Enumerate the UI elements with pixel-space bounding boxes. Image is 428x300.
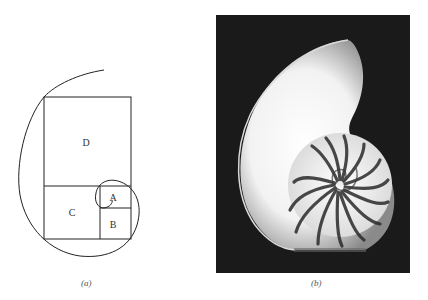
label-a: A: [109, 192, 117, 203]
label-d: D: [82, 137, 89, 148]
figure-panel-b: [200, 0, 428, 300]
figure-panel-a: D C A B: [0, 0, 200, 300]
outer-rectangle: [44, 97, 131, 239]
label-c: C: [69, 207, 76, 218]
caption-a: (a): [81, 278, 92, 288]
caption-b: (b): [311, 278, 322, 288]
label-b: B: [110, 219, 117, 230]
golden-rectangle-diagram: D C A B: [0, 0, 200, 300]
nautilus-shell-photo: [200, 0, 428, 300]
shell-base: [294, 248, 366, 252]
golden-spiral: [19, 70, 139, 256]
